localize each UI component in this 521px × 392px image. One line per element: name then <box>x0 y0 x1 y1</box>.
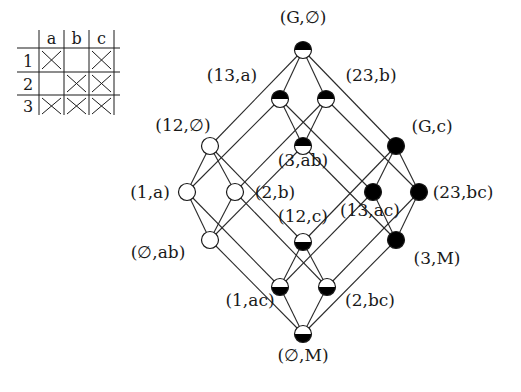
lattice-node-23_b <box>318 91 335 108</box>
lattice-node-13_a <box>272 91 289 108</box>
node-label: (∅,ab) <box>131 242 186 262</box>
lattice-edge <box>303 240 396 334</box>
lattice-node-G_empty <box>295 42 312 59</box>
node-label: (G,∅) <box>280 7 327 27</box>
lattice-edge <box>235 99 326 192</box>
node-label: (23,bc) <box>433 182 494 202</box>
node-label: (∅,M) <box>277 345 328 365</box>
lattice-node-1_a <box>179 184 196 201</box>
node-label: (3,ab) <box>278 150 329 170</box>
lattice-node-12_empty <box>202 138 219 155</box>
node-label: (1,a) <box>130 182 170 202</box>
lattice-node-empty_ab <box>202 232 219 249</box>
node-label: (2,bc) <box>345 290 395 310</box>
lattice-node-empty_M <box>295 326 312 343</box>
lattice-node-3_M <box>388 232 405 249</box>
node-label: (1,ac) <box>225 290 274 310</box>
node-label: (23,b) <box>345 65 396 85</box>
node-label: (3,M) <box>414 248 461 268</box>
node-label: (2,b) <box>255 182 295 202</box>
node-label: (12,c) <box>278 206 328 226</box>
lattice-node-2_bc <box>319 279 336 296</box>
node-label: (12,∅) <box>155 115 210 135</box>
lattice-node-2_b <box>227 184 244 201</box>
lattice-node-G_c <box>388 138 405 155</box>
node-label: (G,c) <box>411 116 452 136</box>
node-label: (13,a) <box>207 65 257 85</box>
lattice-node-12_c <box>295 234 312 251</box>
lattice-node-23_bc <box>411 184 428 201</box>
concept-lattice-diagram: (G,∅)(13,a)(23,b)(12,∅)(3,ab)(G,c)(1,a)(… <box>0 0 521 392</box>
lattice-node-13_ac <box>365 184 382 201</box>
node-label: (13,ac) <box>340 200 400 220</box>
